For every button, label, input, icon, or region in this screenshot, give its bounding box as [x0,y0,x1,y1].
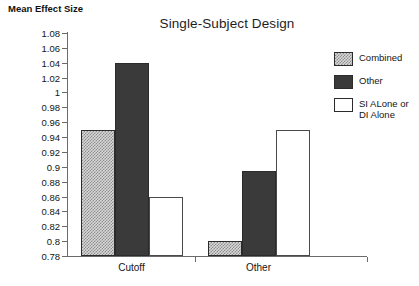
legend-label-other: Other [359,75,383,87]
legend-item-alone: SI ALone or DI Alone [334,98,418,120]
legend-swatch-alone-icon [334,98,353,112]
bar [276,130,310,256]
bar [81,130,115,256]
y-axis-tick-label: 1 [20,87,60,98]
y-axis-tick-label: 1.04 [20,57,60,68]
legend-label-alone: SI ALone or DI Alone [359,98,418,120]
bar [242,171,276,256]
bar [115,63,149,256]
y-axis-tick-label: 0.98 [20,102,60,113]
x-axis-separator-tick [195,257,196,262]
x-axis-separator-tick [367,257,368,262]
y-axis-tick-label: 0.88 [20,176,60,187]
y-axis-tick-label: 0.82 [20,221,60,232]
legend-item-other: Other [334,75,418,89]
y-axis-tick-label: 1.06 [20,42,60,53]
legend-item-combined: Combined [334,52,418,66]
y-axis-tick-label: 0.96 [20,117,60,128]
x-axis-category-label: Cutoff [118,262,145,273]
x-axis-category-label: Other [246,262,271,273]
plot-area [68,33,322,256]
y-axis-tick-label: 0.86 [20,191,60,202]
chart-title: Single-Subject Design [132,16,322,31]
legend-label-combined: Combined [359,52,402,64]
y-axis-tick-label: 0.78 [20,251,60,262]
y-axis-tick-label: 0.84 [20,206,60,217]
legend-swatch-other-icon [334,75,353,89]
y-axis-tick-label: 0.94 [20,132,60,143]
y-axis-tick-label: 1.08 [20,28,60,39]
chart-legend: Combined Other SI ALone or DI Alone [334,52,418,129]
y-axis-tick-label: 0.92 [20,146,60,157]
bar-chart: Mean Effect Size Single-Subject Design 1… [0,0,419,286]
y-axis-tick-label: 0.9 [20,161,60,172]
x-axis-line [67,256,367,257]
y-axis-tick-label: 0.8 [20,236,60,247]
y-axis-tick-label: 1.02 [20,72,60,83]
legend-swatch-combined-icon [334,52,353,66]
bar [149,197,183,256]
y-axis-tick-labels: 1.081.061.041.0210.980.960.940.920.90.88… [16,0,60,286]
bar [208,241,242,256]
